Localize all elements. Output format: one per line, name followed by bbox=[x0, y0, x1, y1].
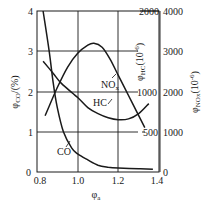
x-tick-1.2: 1.2 bbox=[112, 175, 125, 186]
nox-annotation: NOx bbox=[101, 79, 119, 92]
emissions-chart: 4 3 2 1 0 0.8 1.0 1.2 1.4 2000 1000 500 … bbox=[0, 0, 207, 209]
hc-tick-2000: 2000 bbox=[139, 6, 159, 17]
x-axis-ticks: 0.8 1.0 1.2 1.4 bbox=[34, 175, 164, 186]
y-left-label: φCO/(%) bbox=[9, 75, 22, 108]
tick-1: 1 bbox=[28, 127, 33, 138]
hc-annotation: HC bbox=[93, 97, 107, 108]
y-nox-label: φNOx(10-6) bbox=[188, 71, 202, 113]
hc-tick-500: 500 bbox=[143, 127, 158, 138]
nox-tick-4000: 4000 bbox=[163, 6, 183, 17]
tick-0: 0 bbox=[26, 167, 31, 178]
x-axis-label: φa bbox=[92, 189, 102, 202]
nox-axis-labels: 4000 3000 2000 1000 0 bbox=[163, 6, 183, 178]
tick-4: 4 bbox=[28, 6, 33, 17]
nox-tick-3000: 3000 bbox=[163, 46, 183, 57]
nox-curve bbox=[45, 43, 145, 128]
left-axis-ticks: 4 3 2 1 0 bbox=[26, 6, 33, 178]
hc-tick-1000: 1000 bbox=[137, 87, 157, 98]
nox-tick-2000: 2000 bbox=[163, 87, 183, 98]
co-annotation: CO bbox=[57, 146, 71, 157]
curve-annotations: CO HC NOx bbox=[57, 74, 119, 157]
x-tick-0.8: 0.8 bbox=[34, 175, 47, 186]
nox-tick-0: 0 bbox=[163, 167, 168, 178]
x-tick-1.0: 1.0 bbox=[72, 175, 85, 186]
x-tick-1.4: 1.4 bbox=[151, 175, 164, 186]
nox-tick-1000: 1000 bbox=[163, 127, 183, 138]
y-hc-label: φHC(10-6) bbox=[133, 43, 147, 81]
grid bbox=[37, 11, 138, 172]
hc-curve bbox=[43, 61, 149, 120]
tick-3: 3 bbox=[28, 46, 33, 57]
tick-2: 2 bbox=[28, 87, 33, 98]
